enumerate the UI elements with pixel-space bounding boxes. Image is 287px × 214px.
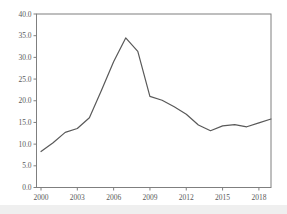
y-tick-label: 25.0 bbox=[18, 75, 31, 84]
x-tick-label: 2006 bbox=[106, 193, 121, 202]
x-tick-label: 2009 bbox=[142, 193, 157, 202]
y-tick-label: 0.0 bbox=[22, 183, 32, 192]
series-line bbox=[41, 38, 271, 152]
chart-container: 0.05.010.015.020.025.030.035.040.0200020… bbox=[0, 0, 287, 214]
y-tick-label: 30.0 bbox=[18, 53, 31, 62]
x-tick-label: 2012 bbox=[179, 193, 194, 202]
x-tick-label: 2015 bbox=[215, 193, 230, 202]
y-tick-label: 35.0 bbox=[18, 31, 31, 40]
y-tick-label: 40.0 bbox=[18, 10, 31, 19]
y-tick-label: 10.0 bbox=[18, 140, 31, 149]
line-chart: 0.05.010.015.020.025.030.035.040.0200020… bbox=[0, 0, 287, 214]
x-tick-label: 2003 bbox=[70, 193, 85, 202]
x-tick-label: 2000 bbox=[34, 193, 49, 202]
x-tick-label: 2018 bbox=[251, 193, 266, 202]
y-tick-label: 20.0 bbox=[18, 96, 31, 105]
plot-border bbox=[37, 14, 272, 188]
bottom-edge bbox=[0, 205, 287, 214]
y-tick-label: 5.0 bbox=[22, 161, 32, 170]
y-tick-label: 15.0 bbox=[18, 118, 31, 127]
